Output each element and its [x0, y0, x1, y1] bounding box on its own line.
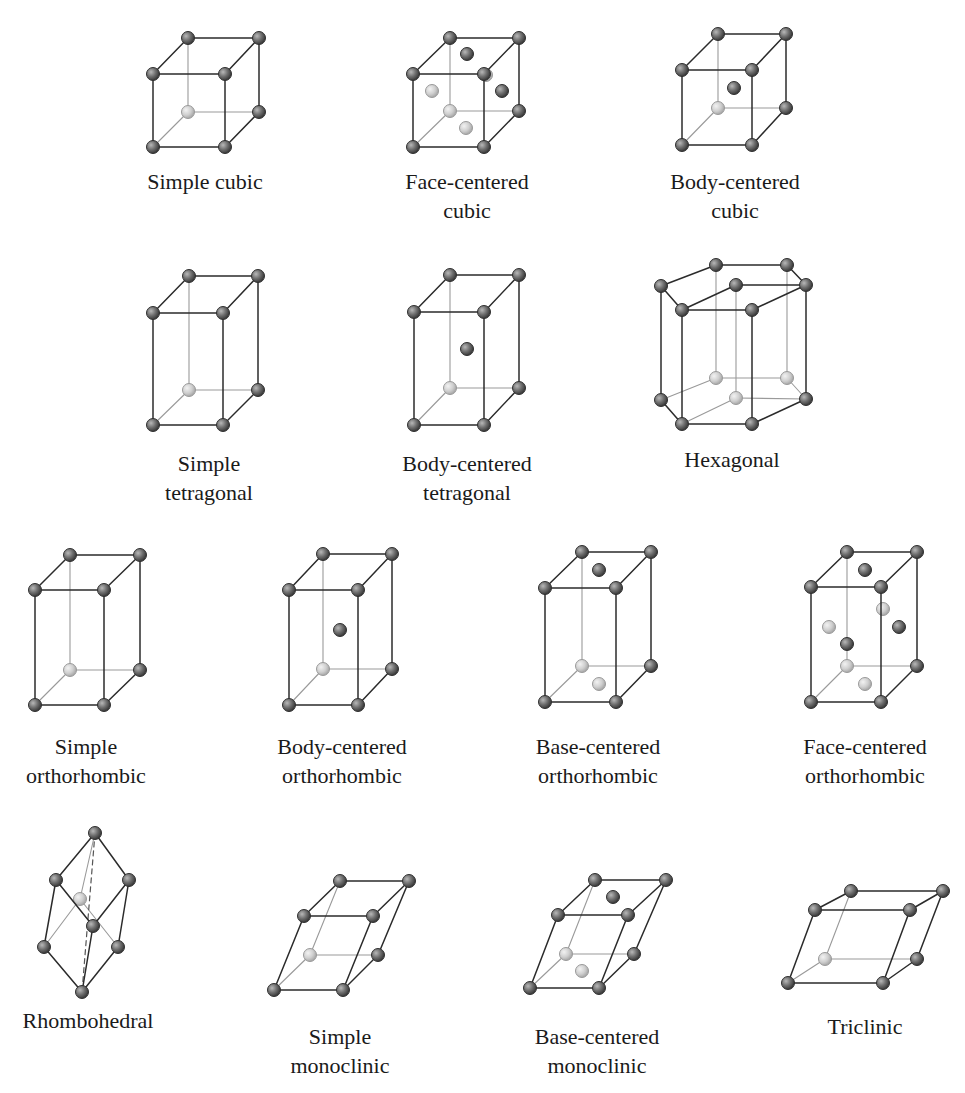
corner-atom — [252, 270, 265, 283]
corner-atom — [800, 279, 813, 292]
corner-atom — [622, 909, 635, 922]
label-simple-tetragonal: Simpletetragonal — [165, 449, 253, 507]
label-line: Simple — [165, 449, 253, 478]
centered-atom — [607, 891, 620, 904]
corner-atom — [386, 548, 399, 561]
corner-atom — [676, 64, 689, 77]
back-corner-atom — [444, 382, 457, 395]
label-line: tetragonal — [165, 478, 253, 507]
corner-atom — [875, 696, 888, 709]
corner-atom — [217, 419, 230, 432]
label-line: Base-centered — [536, 732, 661, 761]
corner-atom — [610, 582, 623, 595]
corner-atom — [552, 909, 565, 922]
lattice-drawings — [0, 0, 965, 1093]
corner-atom — [182, 32, 195, 45]
corner-atom — [283, 584, 296, 597]
back-corner-atom — [64, 664, 77, 677]
lattice-body-centered-cubic — [676, 28, 793, 152]
label-line: orthorhombic — [277, 761, 407, 790]
corner-atom — [513, 105, 526, 118]
corner-atom — [183, 270, 196, 283]
centered-atom — [893, 621, 906, 634]
corner-atom — [593, 982, 606, 995]
corner-atom — [134, 664, 147, 677]
bravais-lattices-figure: Simple cubicFace-centeredcubicBody-cente… — [0, 0, 965, 1093]
label-face-centered-cubic: Face-centeredcubic — [405, 167, 528, 225]
corner-atom — [29, 584, 42, 597]
label-line: orthorhombic — [26, 761, 146, 790]
corner-atom — [610, 696, 623, 709]
centered-atom — [841, 638, 854, 651]
label-line: Simple — [26, 732, 146, 761]
label-simple-monoclinic: Simplemonoclinic — [291, 1022, 390, 1080]
corner-atom — [524, 982, 537, 995]
lattice-simple-cubic — [147, 32, 266, 154]
corner-atom — [539, 696, 552, 709]
corner-atom — [134, 549, 147, 562]
corner-atom — [372, 949, 385, 962]
lattice-rhombohedral — [38, 827, 136, 999]
back-centered-atom — [823, 621, 836, 634]
lattice-triclinic — [782, 885, 950, 990]
corner-atom — [408, 306, 421, 319]
corner-atom — [746, 418, 759, 431]
corner-atom — [780, 28, 793, 41]
corner-atom — [407, 141, 420, 154]
lattice-simple-orthorhombic — [29, 549, 147, 712]
corner-atom — [676, 304, 689, 317]
back-centered-atom — [877, 603, 890, 616]
label-line: cubic — [670, 196, 800, 225]
corner-atom — [628, 948, 641, 961]
corner-atom — [746, 64, 759, 77]
corner-atom — [845, 885, 858, 898]
corner-atom — [655, 280, 668, 293]
corner-atom — [712, 28, 725, 41]
corner-atom — [408, 419, 421, 432]
lattice-simple-tetragonal — [147, 270, 265, 432]
back-corner-atom — [304, 949, 317, 962]
back-corner-atom — [710, 372, 723, 385]
centered-atom — [461, 343, 474, 356]
corner-atom — [513, 269, 526, 282]
label-line: Hexagonal — [684, 445, 779, 474]
label-body-centered-cubic: Body-centeredcubic — [670, 167, 800, 225]
corner-atom — [805, 696, 818, 709]
lattice-base-centered-orthorhombic — [539, 546, 658, 709]
corner-atom — [352, 584, 365, 597]
back-corner-atom — [781, 372, 794, 385]
label-rhombohedral: Rhombohedral — [23, 1006, 154, 1035]
corner-atom — [147, 141, 160, 154]
corner-atom — [253, 106, 266, 119]
corner-atom — [253, 32, 266, 45]
corner-atom — [147, 68, 160, 81]
corner-atom — [730, 279, 743, 292]
label-line: Body-centered — [402, 449, 532, 478]
corner-atom — [50, 874, 63, 887]
corner-atom — [841, 546, 854, 559]
corner-atom — [478, 419, 491, 432]
corner-atom — [911, 546, 924, 559]
back-corner-atom — [182, 106, 195, 119]
label-hexagonal: Hexagonal — [684, 445, 779, 474]
corner-atom — [781, 259, 794, 272]
corner-atom — [123, 874, 136, 887]
corner-atom — [800, 393, 813, 406]
corner-atom — [710, 259, 723, 272]
label-line: Triclinic — [828, 1012, 903, 1041]
corner-atom — [98, 584, 111, 597]
label-base-centered-monoclinic: Base-centeredmonoclinic — [535, 1022, 660, 1080]
label-face-centered-orthorhombic: Face-centeredorthorhombic — [803, 732, 926, 790]
label-line: Simple cubic — [147, 167, 262, 196]
corner-atom — [29, 699, 42, 712]
centered-atom — [461, 48, 474, 61]
lattice-hexagonal — [655, 259, 813, 431]
label-line: Rhombohedral — [23, 1006, 154, 1035]
corner-atom — [877, 977, 890, 990]
corner-atom — [746, 304, 759, 317]
corner-atom — [478, 68, 491, 81]
corner-atom — [219, 68, 232, 81]
corner-atom — [337, 984, 350, 997]
label-line: Body-centered — [670, 167, 800, 196]
corner-atom — [317, 548, 330, 561]
